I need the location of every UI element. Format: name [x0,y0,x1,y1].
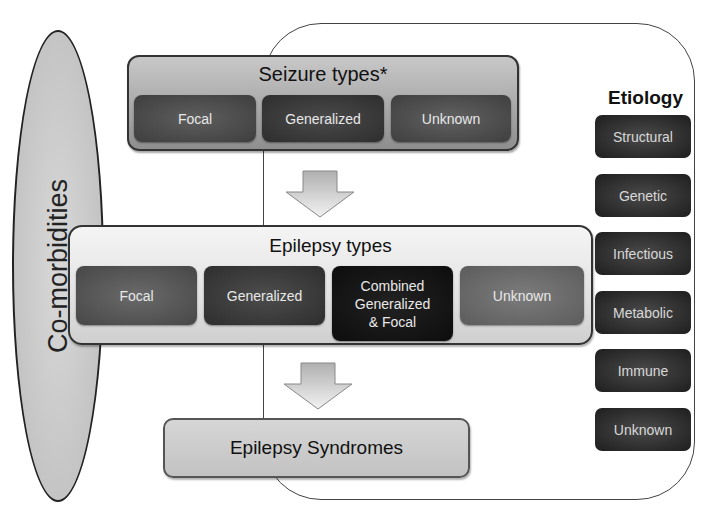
etiology-structural: Structural [595,115,691,158]
epilepsy-type-combined: Combined Generalized & Focal [332,266,453,341]
down-arrow-icon [283,362,353,410]
combined-line-3: & Focal [369,313,416,331]
etiology-metabolic: Metabolic [595,291,691,334]
combined-line-1: Combined [361,277,425,295]
etiology-immune: Immune [595,349,691,392]
seizure-type-unknown: Unknown [391,95,511,142]
seizure-type-generalized: Generalized [262,95,384,142]
epilepsy-types-title: Epilepsy types [68,235,593,257]
etiology-infectious: Infectious [595,232,691,275]
epilepsy-syndromes-box: Epilepsy Syndromes [163,418,470,478]
etiology-title: Etiology [598,87,693,109]
seizure-type-focal: Focal [134,95,256,142]
epilepsy-type-unknown: Unknown [460,266,584,325]
epilepsy-type-focal: Focal [76,266,197,325]
combined-line-2: Generalized [355,295,431,313]
etiology-genetic: Genetic [595,174,691,217]
etiology-unknown: Unknown [595,408,691,451]
down-arrow-icon [285,170,355,218]
seizure-types-title: Seizure types* [127,63,519,86]
epilepsy-type-generalized: Generalized [204,266,325,325]
